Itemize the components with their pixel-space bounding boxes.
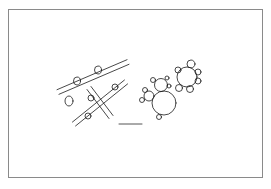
cluster-circle [143, 88, 148, 93]
cluster-circle [155, 79, 168, 92]
cluster-circle [165, 76, 169, 80]
cluster-circle [176, 85, 183, 92]
cluster-circle [152, 91, 176, 115]
right-cluster [175, 60, 201, 93]
bud [112, 84, 118, 90]
tubes-group [57, 60, 129, 126]
bud [65, 96, 73, 106]
circle-clusters-group [140, 60, 202, 120]
bud [95, 66, 102, 74]
left-cluster [140, 76, 177, 120]
diagram-drawing [0, 0, 271, 189]
cluster-circle [177, 67, 197, 87]
lower-tube [72, 80, 127, 126]
cluster-circle [187, 60, 195, 68]
cluster-circle [140, 98, 145, 103]
cluster-circle [151, 78, 156, 83]
cluster-circle [157, 115, 162, 120]
